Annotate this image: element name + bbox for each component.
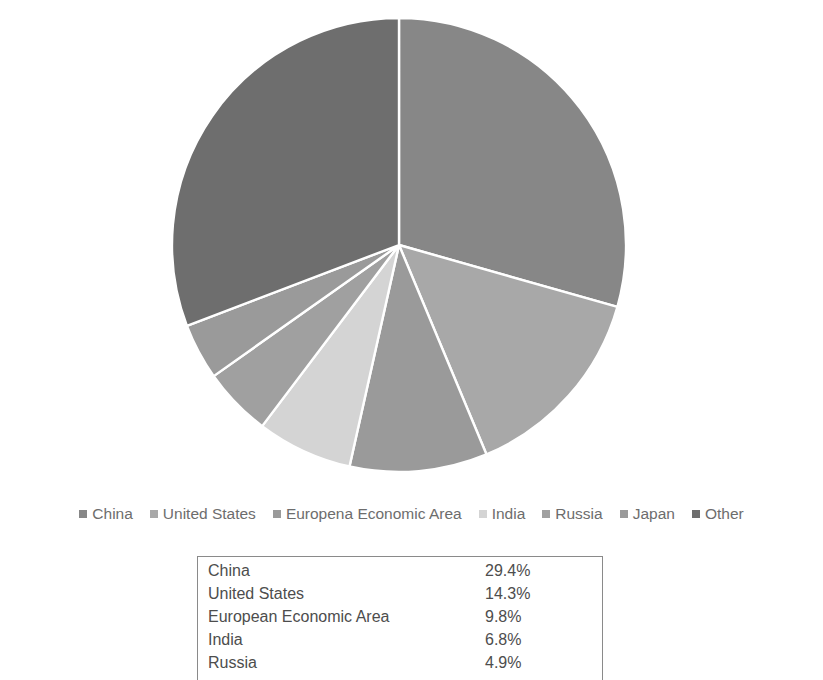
pie-chart-svg <box>0 0 823 495</box>
legend-swatch-icon <box>692 510 700 518</box>
table-cell-value: 6.8% <box>473 628 583 651</box>
table-cell-name: India <box>198 628 473 651</box>
legend-item-label: Europena Economic Area <box>286 505 462 523</box>
data-table: China29.4%United States14.3%European Eco… <box>197 556 603 680</box>
legend-item[interactable]: Europena Economic Area <box>273 505 462 523</box>
table-cell-name: European Economic Area <box>198 605 473 628</box>
legend-item[interactable]: United States <box>150 505 256 523</box>
legend-swatch-icon <box>542 510 550 518</box>
pie-slice-group <box>172 18 626 472</box>
table-row: Russia4.9% <box>198 651 602 674</box>
table-cell-value: 29.4% <box>473 559 583 582</box>
legend-item[interactable]: Russia <box>542 505 602 523</box>
legend-item-label: Japan <box>633 505 675 523</box>
legend-item-label: Other <box>705 505 744 523</box>
table-cell-value: 9.8% <box>473 605 583 628</box>
legend-item-label: United States <box>163 505 256 523</box>
legend-item-label: India <box>492 505 526 523</box>
chart-legend: ChinaUnited StatesEuropena Economic Area… <box>0 505 823 523</box>
legend-swatch-icon <box>620 510 628 518</box>
legend-swatch-icon <box>479 510 487 518</box>
legend-swatch-icon <box>273 510 281 518</box>
table-cell-name: Russia <box>198 651 473 674</box>
table-row: China29.4% <box>198 559 602 582</box>
legend-swatch-icon <box>79 510 87 518</box>
table-body: China29.4%United States14.3%European Eco… <box>198 559 602 674</box>
legend-item-label: Russia <box>555 505 602 523</box>
table-row: India6.8% <box>198 628 602 651</box>
table-cell-value: 14.3% <box>473 582 583 605</box>
legend-item[interactable]: Other <box>692 505 744 523</box>
legend-item[interactable]: China <box>79 505 133 523</box>
legend-item[interactable]: India <box>479 505 526 523</box>
legend-item-label: China <box>92 505 133 523</box>
table-cell-name: China <box>198 559 473 582</box>
pie-chart <box>0 0 823 495</box>
table-cell-value: 4.9% <box>473 651 583 674</box>
table-row: United States14.3% <box>198 582 602 605</box>
table-cell-name: United States <box>198 582 473 605</box>
legend-swatch-icon <box>150 510 158 518</box>
legend-item[interactable]: Japan <box>620 505 675 523</box>
table-row: European Economic Area9.8% <box>198 605 602 628</box>
